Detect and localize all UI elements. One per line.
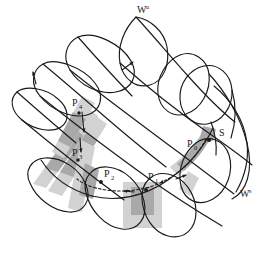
label-stable-manifold: W s [240,188,252,200]
point-marker-P1 [144,188,148,192]
label-P1-base: P [148,171,154,182]
homoclinic-tangle-figure: W u W s S P 0 P 1 P 2 P 3 [0,0,264,257]
label-saddle-point: S [219,127,225,138]
label-P0-subscript: 0 [194,144,197,151]
point-marker-P4 [77,111,80,114]
point-marker-P2 [99,180,103,184]
label-P2-base: P [104,168,110,179]
label-P3-subscript: 3 [79,153,82,160]
label-Wu-superscript: u [146,4,149,10]
label-P4-base: P [72,97,78,108]
label-P2-subscript: 2 [111,174,114,181]
point-marker-P0 [207,138,211,142]
label-Ws-superscript: s [249,188,252,194]
lobe-band-right-stub [179,171,199,196]
label-P0-base: P [187,138,193,149]
label-P3-base: P [72,147,78,158]
tangle-diagram-canvas: W u W s S P 0 P 1 P 2 P 3 [0,0,264,257]
label-unstable-manifold: W u [137,4,149,16]
label-P1-subscript: 1 [155,177,158,184]
label-point-P2: P 2 [104,168,114,181]
